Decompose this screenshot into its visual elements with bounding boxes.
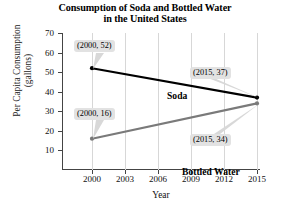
series-line-bottled-water (92, 103, 257, 138)
y-tick-label-70: 70 (28, 29, 54, 38)
x-tick-label-2006: 2006 (141, 175, 175, 184)
y-axis-title-line-1: Per Capita Consumption (12, 25, 22, 117)
series-label-bottled-water: Bottled Water (182, 166, 240, 177)
y-tick-label-60: 60 (28, 49, 54, 58)
x-tick-label-2000: 2000 (75, 175, 109, 184)
series-lines (62, 33, 260, 170)
chart-figure: Consumption of Soda and Bottled Water in… (0, 0, 282, 209)
y-tick-label-40: 40 (28, 88, 54, 97)
data-point-soda-2015 (255, 96, 259, 100)
callout-soda-2000: (2000, 52) (74, 40, 115, 52)
chart-title-line-2: in the United States (20, 13, 270, 24)
x-axis-title: Year (62, 190, 260, 200)
series-label-soda: Soda (167, 90, 187, 101)
callout-soda-2015: (2015, 37) (190, 67, 231, 79)
y-tick-label-50: 50 (28, 68, 54, 77)
x-tick-label-2015: 2015 (240, 175, 274, 184)
chart-title-line-1: Consumption of Soda and Bottled Water (58, 2, 231, 13)
plot-area: 70 60 50 40 30 20 10 2000 2003 2006 2009… (62, 33, 260, 170)
data-point-water-2000 (90, 137, 94, 141)
y-tick-label-10: 10 (28, 146, 54, 155)
x-tick-label-2003: 2003 (108, 175, 142, 184)
y-tick-label-20: 20 (28, 127, 54, 136)
callout-water-2015: (2015, 34) (190, 134, 231, 146)
data-point-soda-2000 (90, 66, 94, 70)
callout-water-2000: (2000, 16) (74, 108, 115, 120)
chart-title: Consumption of Soda and Bottled Water in… (20, 2, 270, 25)
y-tick-label-30: 30 (28, 107, 54, 116)
data-point-water-2015 (255, 101, 259, 105)
